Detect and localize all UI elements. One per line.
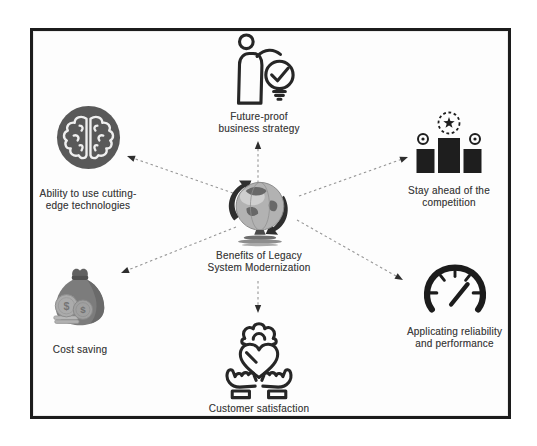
brain-icon	[55, 104, 122, 171]
node-cutting-edge: Ability to use cutting- edge technologie…	[13, 104, 163, 212]
globe-icon	[217, 174, 301, 248]
node-label: Stay ahead of the competition	[408, 185, 490, 209]
node-cost-saving: $ $ Cost saving	[5, 266, 155, 356]
podium-winner-icon	[416, 111, 482, 175]
node-reliability: Applicating reliability and performance	[382, 261, 527, 350]
node-label: Customer satisfaction	[209, 403, 309, 415]
node-label: Applicating reliability and performance	[407, 326, 502, 350]
node-stay-ahead: Stay ahead of the competition	[374, 111, 524, 209]
node-label: Ability to use cutting- edge technologie…	[40, 188, 137, 212]
node-center-hub: Benefits of Legacy System Modernization	[186, 174, 332, 274]
person-idea-check-icon	[218, 33, 300, 109]
legacy-modernization-diagram: Future-proof business strategy	[0, 0, 537, 446]
node-label: Future-proof business strategy	[218, 111, 299, 135]
money-bag-icon: $ $	[46, 266, 114, 330]
node-future-proof: Future-proof business strategy	[186, 33, 332, 135]
hands-heart-icon	[215, 313, 303, 400]
center-label: Benefits of Legacy System Modernization	[208, 250, 311, 274]
svg-text:$: $	[80, 304, 86, 315]
node-label: Cost saving	[53, 344, 107, 356]
speedometer-icon	[422, 261, 488, 319]
node-customer-satisfaction: Customer satisfaction	[186, 313, 332, 415]
svg-text:$: $	[63, 300, 69, 312]
